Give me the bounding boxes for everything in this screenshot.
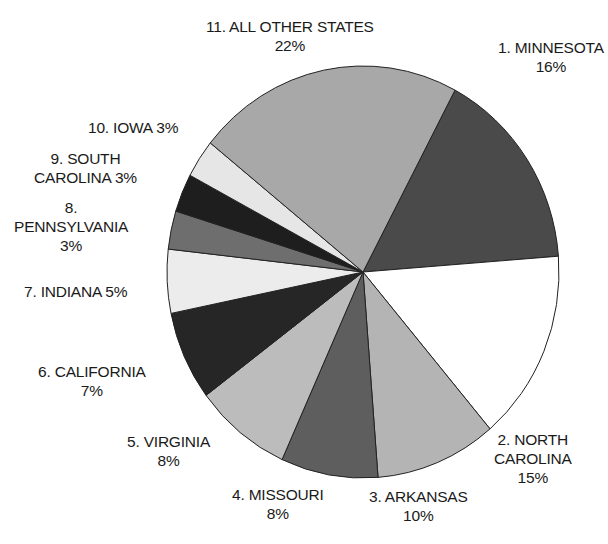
label-text: 1. MINNESOTA bbox=[498, 38, 604, 57]
label-text: CAROLINA bbox=[494, 449, 572, 468]
label-percent: 7% bbox=[38, 381, 146, 400]
label-arkansas: 3. ARKANSAS 10% bbox=[369, 487, 468, 525]
label-text: 11. ALL OTHER STATES bbox=[206, 17, 374, 36]
pie-slices bbox=[167, 66, 559, 478]
label-south-carolina: 9. SOUTH CAROLINA 3% bbox=[34, 149, 137, 187]
label-text: CAROLINA 3% bbox=[34, 168, 137, 187]
label-text: 10. IOWA 3% bbox=[88, 118, 178, 137]
label-percent: 8% bbox=[232, 504, 324, 523]
label-text: PENNSYLVANIA bbox=[14, 217, 128, 236]
label-text: 4. MISSOURI bbox=[232, 485, 324, 504]
label-iowa: 10. IOWA 3% bbox=[88, 118, 178, 137]
label-indiana: 7. INDIANA 5% bbox=[24, 282, 127, 301]
label-text: 7. INDIANA 5% bbox=[24, 282, 127, 301]
label-all-other-states: 11. ALL OTHER STATES 22% bbox=[206, 17, 374, 55]
label-text: 6. CALIFORNIA bbox=[38, 362, 146, 381]
label-california: 6. CALIFORNIA 7% bbox=[38, 362, 146, 400]
label-pennsylvania: 8. PENNSYLVANIA 3% bbox=[14, 198, 128, 255]
label-percent: 8% bbox=[127, 451, 210, 470]
label-percent: 3% bbox=[14, 236, 128, 255]
label-percent: 22% bbox=[206, 36, 374, 55]
label-percent: 10% bbox=[369, 506, 468, 525]
label-text: 3. ARKANSAS bbox=[369, 487, 468, 506]
label-text: 9. SOUTH bbox=[34, 149, 137, 168]
label-text: 8. bbox=[14, 198, 128, 217]
label-minnesota: 1. MINNESOTA 16% bbox=[498, 38, 604, 76]
label-percent: 16% bbox=[498, 57, 604, 76]
label-text: 2. NORTH bbox=[494, 430, 572, 449]
label-north-carolina: 2. NORTH CAROLINA 15% bbox=[494, 430, 572, 487]
label-percent: 15% bbox=[494, 468, 572, 487]
label-text: 5. VIRGINIA bbox=[127, 432, 210, 451]
label-missouri: 4. MISSOURI 8% bbox=[232, 485, 324, 523]
label-virginia: 5. VIRGINIA 8% bbox=[127, 432, 210, 470]
